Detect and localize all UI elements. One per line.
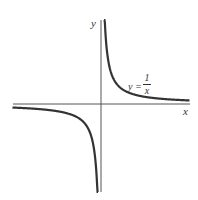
equation-lhs: y = xyxy=(128,82,142,92)
y-axis-label: y xyxy=(91,18,96,29)
x-axis-label: x xyxy=(183,106,188,117)
equation-numerator: 1 xyxy=(145,73,150,83)
equation-fraction: 1 x xyxy=(143,73,151,96)
curve-negative-branch xyxy=(13,108,99,192)
equation-denominator: x xyxy=(145,86,149,96)
chart-canvas xyxy=(0,0,198,200)
